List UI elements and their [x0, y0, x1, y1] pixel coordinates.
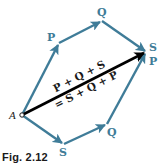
origin-point — [20, 113, 24, 117]
vector-diagram: A P Q S S Q P P + Q + S = S + Q + P — [0, 0, 167, 167]
label-Q-upper: Q — [97, 6, 107, 19]
label-P-lower: P — [149, 55, 157, 68]
label-Q-lower: Q — [107, 126, 117, 139]
label-P-upper: P — [47, 31, 55, 44]
label-S-upper: S — [149, 41, 157, 54]
vector-S-lower — [22, 115, 62, 143]
label-S-lower: S — [59, 146, 67, 159]
vector-P-lower — [107, 54, 145, 124]
vector-Q-lower — [64, 125, 105, 144]
vector-S-upper — [102, 21, 145, 51]
origin-label: A — [8, 109, 16, 121]
vector-Q-upper — [59, 22, 100, 43]
vector-addition-figure: A P Q S S Q P P + Q + S = S + Q + P Fig.… — [0, 0, 167, 167]
figure-caption: Fig. 2.12 — [2, 151, 48, 163]
